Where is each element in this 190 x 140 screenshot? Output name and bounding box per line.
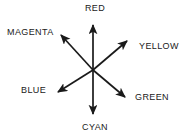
axis-label-magenta: MAGENTA [7, 27, 54, 37]
color-axes-diagram: RED CYAN MAGENTA GREEN YELLOW BLUE [0, 0, 190, 140]
axis-label-green: GREEN [135, 92, 169, 102]
axis-line-magenta [61, 35, 93, 70]
axis-label-yellow: YELLOW [139, 41, 179, 51]
axis-line-green [93, 70, 125, 97]
axes-vector-graphic [0, 0, 190, 140]
axis-line-blue [58, 70, 93, 92]
axis-label-cyan: CYAN [0, 122, 190, 132]
axis-line-yellow [93, 41, 127, 70]
axis-label-blue: BLUE [21, 85, 46, 95]
axis-label-red: RED [0, 3, 190, 13]
